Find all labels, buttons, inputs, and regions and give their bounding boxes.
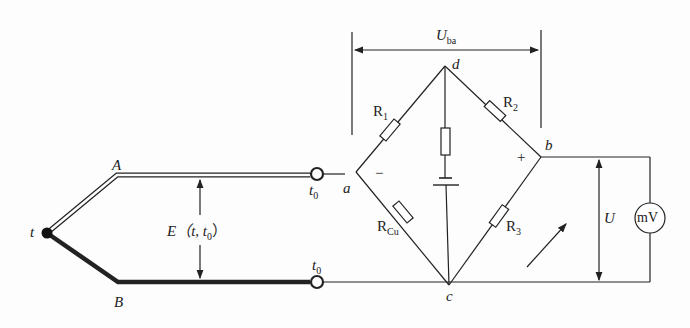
label-wire-b: B: [114, 295, 123, 310]
label-terminal-top-temp: t0: [309, 183, 318, 198]
thermocouple-bridge-diagram: t A B t0 t0 E（t, t0） a b c d R1 R2 RCu R…: [0, 0, 690, 328]
terminal-bottom: [311, 276, 323, 288]
hot-junction-dot: [42, 228, 53, 239]
label-plus: +: [517, 150, 525, 165]
label-node-a: a: [343, 181, 351, 196]
label-r1: R1: [373, 104, 388, 119]
label-rcu: RCu: [377, 219, 399, 234]
label-minus: −: [375, 166, 383, 181]
resistor-center: [441, 128, 450, 155]
label-uba: Uba: [436, 28, 456, 43]
label-emf: E（t, t0）: [167, 224, 227, 239]
label-hot-junction: t: [30, 225, 34, 240]
label-u: U: [604, 211, 615, 226]
thermocouple-wire-b: [47, 233, 310, 282]
resistor-r1: [380, 119, 400, 141]
label-r3: R3: [506, 219, 521, 234]
label-terminal-bottom-temp: t0: [312, 258, 321, 273]
label-node-b: b: [545, 138, 553, 153]
label-node-d: d: [452, 57, 460, 72]
label-millivoltmeter: mV: [637, 211, 658, 225]
label-r2: R2: [503, 95, 518, 110]
label-wire-a: A: [112, 158, 121, 173]
label-node-c: c: [446, 289, 453, 304]
circuit-drawing: [0, 0, 690, 328]
terminal-top: [311, 168, 323, 180]
